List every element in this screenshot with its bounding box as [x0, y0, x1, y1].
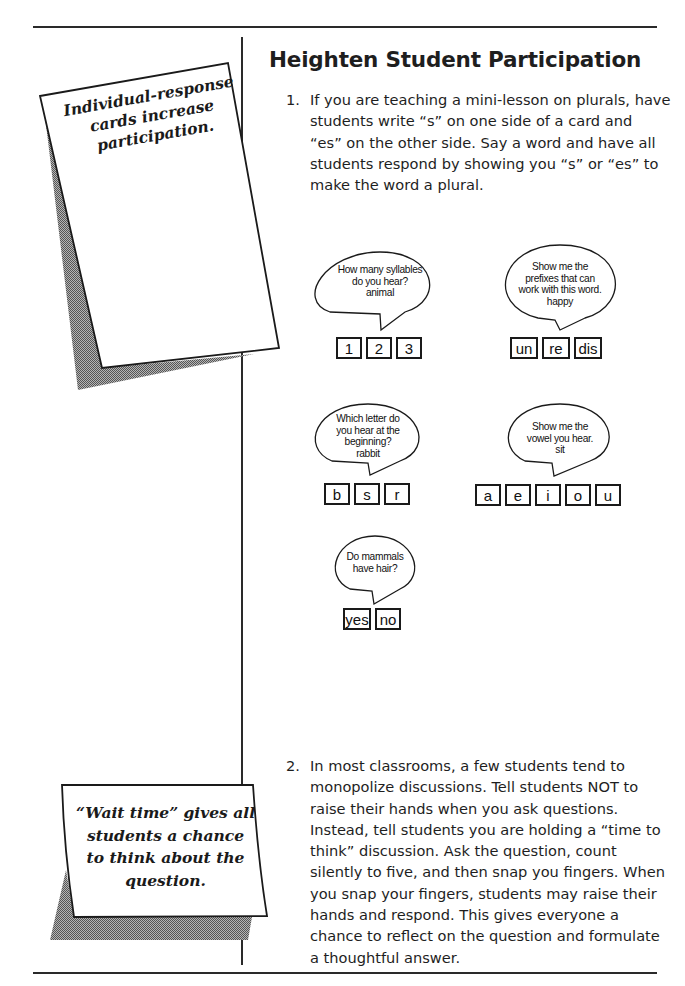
response-card: o — [565, 484, 591, 506]
bubble-4-text: Show me the vowel you hear. sit — [510, 421, 610, 456]
note-line: students a chance — [68, 825, 263, 848]
text-line: chance to reflect on the question and fo… — [310, 925, 665, 946]
text-line: you snap your fingers, students may rais… — [310, 883, 665, 904]
text-line: In most classrooms, a few students tend … — [310, 755, 665, 776]
bubble-line: rabbit — [318, 448, 418, 460]
bubble-line: vowel you hear. — [510, 433, 610, 445]
response-card: s — [354, 483, 380, 505]
text-line: hands and respond. This gives everyone a — [310, 904, 665, 925]
bubble-line: happy — [505, 296, 615, 308]
bubble-5-text: Do mammals have hair? — [335, 551, 415, 574]
response-card: a — [475, 484, 501, 506]
note-card-2-text: “Wait time” gives all students a chance … — [68, 802, 263, 892]
text-line: If you are teaching a mini-lesson on plu… — [310, 89, 670, 110]
response-cards-3: b s r — [324, 483, 410, 505]
bubble-line: sit — [510, 444, 610, 456]
bubble-1-text: How many syllables do you hear? animal — [330, 264, 430, 299]
bubble-line: Show me the — [505, 261, 615, 273]
text-line: silently to five, and then snap you fing… — [310, 861, 665, 882]
bubble-line: have hair? — [335, 563, 415, 575]
text-line: raise their hands when you ask questions… — [310, 798, 665, 819]
text-line: Instead, tell students you are holding a… — [310, 819, 665, 840]
bubble-line: Do mammals — [335, 551, 415, 563]
response-card: r — [384, 483, 410, 505]
response-cards-5: yes no — [343, 608, 401, 630]
response-card: 2 — [366, 337, 392, 359]
text-line: students respond by showing you “s” or “… — [310, 153, 670, 174]
bubble-line: do you hear? — [330, 276, 430, 288]
text-line: a thoughtful answer. — [310, 947, 665, 968]
response-cards-4: a e i o u — [475, 484, 621, 506]
response-card: i — [535, 484, 561, 506]
bubble-line: work with this word. — [505, 284, 615, 296]
bubble-line: animal — [330, 287, 430, 299]
text-line: think” discussion. Ask the question, cou… — [310, 840, 665, 861]
response-cards-1: 1 2 3 — [336, 337, 422, 359]
text-line: make the word a plural. — [310, 174, 670, 195]
note-line: to think about the — [68, 847, 263, 870]
page-title: Heighten Student Participation — [269, 47, 641, 72]
response-card: u — [595, 484, 621, 506]
response-card: re — [542, 337, 570, 359]
item-text: In most classrooms, a few students tend … — [310, 755, 665, 968]
response-card: no — [375, 608, 401, 630]
text-line: monopolize discussions. Tell students NO… — [310, 776, 665, 797]
bubble-line: Which letter do — [318, 413, 418, 425]
response-cards-2: un re dis — [510, 337, 602, 359]
response-card: dis — [574, 337, 602, 359]
text-line: students write “s” on one side of a card… — [310, 110, 670, 131]
response-card: 3 — [396, 337, 422, 359]
bubble-line: beginning? — [318, 436, 418, 448]
response-card: e — [505, 484, 531, 506]
response-card: yes — [343, 608, 371, 630]
bubble-line: Show me the — [510, 421, 610, 433]
bubble-2-text: Show me the prefixes that can work with … — [505, 261, 615, 307]
note-line: question. — [68, 870, 263, 893]
bubble-line: prefixes that can — [505, 273, 615, 285]
text-line: “es” on the other side. Say a word and h… — [310, 132, 670, 153]
note-line: “Wait time” gives all — [68, 802, 263, 825]
bubble-line: you hear at the — [318, 425, 418, 437]
response-card: un — [510, 337, 538, 359]
item-text: If you are teaching a mini-lesson on plu… — [310, 89, 670, 195]
item-number: 2. — [286, 755, 300, 776]
bubble-line: How many syllables — [330, 264, 430, 276]
bubble-3-text: Which letter do you hear at the beginnin… — [318, 413, 418, 459]
response-card: 1 — [336, 337, 362, 359]
response-card: b — [324, 483, 350, 505]
item-number: 1. — [286, 89, 300, 110]
